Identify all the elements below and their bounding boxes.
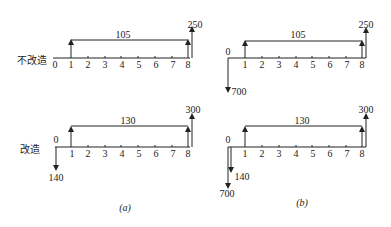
- tick-label: 8: [186, 59, 191, 70]
- tick-label: 2: [86, 59, 91, 70]
- caption-a: (a): [119, 202, 131, 214]
- tick-label: 8: [186, 148, 191, 159]
- annuity-label: 105: [116, 29, 131, 40]
- tick-label: 1: [243, 148, 248, 159]
- tick-label: 6: [328, 148, 333, 159]
- tick-label: 3: [103, 148, 108, 159]
- tick-label: 1: [70, 148, 75, 159]
- annuity-label: 130: [295, 115, 310, 126]
- tick-label: 7: [345, 148, 350, 159]
- tick-label: 4: [294, 59, 299, 70]
- terminal-label: 250: [188, 19, 203, 30]
- terminal-label: 300: [359, 104, 374, 115]
- initial-label: 140: [235, 171, 250, 182]
- tick-label: 7: [171, 148, 176, 159]
- tick-label: 4: [120, 148, 125, 159]
- tick-label: 2: [86, 148, 91, 159]
- tick-label: 5: [137, 148, 142, 159]
- tick-label: 6: [154, 59, 159, 70]
- tick-label: 4: [120, 59, 125, 70]
- caption-b: (b): [296, 197, 308, 209]
- tick-label: 3: [103, 59, 108, 70]
- terminal-label: 300: [186, 104, 201, 115]
- tick-label: 5: [311, 59, 316, 70]
- tick-label: 6: [154, 148, 159, 159]
- tick-label: 7: [171, 59, 176, 70]
- tick-label: 5: [311, 148, 316, 159]
- terminal-label: 250: [359, 19, 374, 30]
- initial-label: 700: [232, 86, 247, 97]
- tick-label: 3: [277, 148, 282, 159]
- tick-label: 7: [345, 59, 350, 70]
- tick-label: 6: [328, 59, 333, 70]
- zero-label: 0: [226, 46, 231, 57]
- tick-label: 0: [53, 59, 58, 70]
- tick-label: 8: [360, 59, 365, 70]
- tick-label: 1: [69, 59, 74, 70]
- tick-label: 4: [294, 148, 299, 159]
- tick-label: 2: [260, 59, 265, 70]
- zero-label: 0: [226, 134, 231, 145]
- annuity-label: 105: [291, 29, 306, 40]
- tick-label: 3: [277, 59, 282, 70]
- cash-flow-diagram: 0 1 2 3 4 5 6 7 8 105 250 0 1 2 3 4 5 6 …: [0, 0, 391, 227]
- initial-label-2: 700: [220, 188, 235, 199]
- annuity-label: 130: [121, 115, 136, 126]
- tick-label: 1: [243, 59, 248, 70]
- tick-label: 5: [137, 59, 142, 70]
- zero-label: 0: [54, 134, 59, 145]
- initial-label: 140: [49, 172, 64, 183]
- tick-label: 2: [260, 148, 265, 159]
- tick-label: 8: [360, 148, 365, 159]
